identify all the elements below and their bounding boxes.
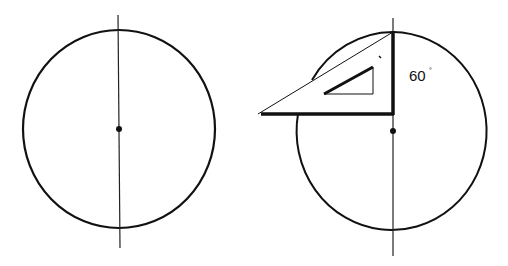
right-center-dot	[390, 128, 396, 134]
degree-symbol: °	[429, 67, 432, 74]
diagram-canvas: 60 °	[0, 0, 508, 266]
right-figure: 60 °	[258, 18, 487, 256]
angle-label: 60	[409, 67, 426, 84]
left-figure	[23, 15, 215, 248]
left-center-dot	[116, 126, 122, 132]
set-square	[258, 31, 394, 115]
